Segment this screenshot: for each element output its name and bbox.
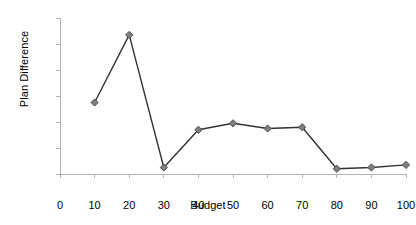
data-line: [95, 35, 406, 169]
chart-canvas: [60, 18, 406, 174]
data-point-marker: [368, 164, 375, 171]
data-point-marker: [126, 31, 133, 38]
data-markers: [91, 31, 410, 172]
data-point-marker: [91, 99, 98, 106]
chart-container: Plan Difference Budget 00.20.40.60.811.2…: [0, 0, 416, 225]
y-axis-title: Plan Difference: [16, 0, 32, 139]
x-tick-label: 100: [386, 200, 416, 211]
data-point-marker: [229, 120, 236, 127]
data-point-marker: [402, 161, 409, 168]
data-point-marker: [264, 125, 271, 132]
axis-lines: [60, 18, 406, 174]
tick-marks: [56, 18, 406, 178]
plot-area: 00.20.40.60.811.2 0102030405060708090100: [60, 18, 406, 174]
